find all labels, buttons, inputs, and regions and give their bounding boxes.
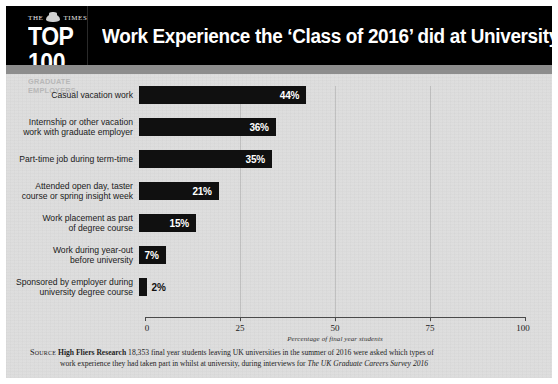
bar-category-label: Casual vacation work bbox=[6, 90, 139, 100]
x-tick-label-50: 50 bbox=[331, 323, 340, 333]
source-text-line-1: 18,353 final year students leaving UK un… bbox=[128, 348, 434, 357]
x-tick-0 bbox=[145, 317, 146, 321]
plot-area: Casual vacation work44%Internship or oth… bbox=[6, 74, 552, 344]
bar-value-label: 2% bbox=[147, 282, 166, 293]
bar-track: 44% bbox=[139, 86, 552, 104]
bar-row: Attended open day, taster course or spri… bbox=[6, 182, 552, 200]
bar-track: 2% bbox=[139, 278, 552, 296]
x-tick-50 bbox=[335, 317, 336, 321]
bar-value-label: 21% bbox=[192, 186, 218, 197]
bar-value-label: 15% bbox=[170, 218, 196, 229]
bar-track: 21% bbox=[139, 182, 552, 200]
x-axis: 0 25 50 75 100 bbox=[145, 317, 525, 318]
page-title: Work Experience the ‘Class of 2016’ did … bbox=[102, 25, 558, 47]
bar-value-label: 35% bbox=[246, 154, 272, 165]
header-accent-band bbox=[6, 65, 552, 74]
bar-row: Work during year-out before university7% bbox=[6, 246, 552, 264]
bar: 35% bbox=[139, 150, 272, 168]
x-tick-75 bbox=[430, 317, 431, 321]
bar: 2% bbox=[139, 278, 147, 296]
bar-category-label: Internship or other vacation work with g… bbox=[6, 117, 139, 137]
x-axis-label: Percentage of final year students bbox=[145, 335, 525, 343]
bar-category-label: Work placement as part of degree course bbox=[6, 213, 139, 233]
bar: 21% bbox=[139, 182, 219, 200]
header-band: THE TIMES TOP 100 GRADUATE EMPLOYERS Wor… bbox=[6, 6, 552, 65]
x-tick-25 bbox=[240, 317, 241, 321]
bar-track: 36% bbox=[139, 118, 552, 136]
bar-row: Casual vacation work44% bbox=[6, 86, 552, 104]
x-tick-100 bbox=[525, 317, 526, 321]
source-text-line-2: work experience they had taken part in w… bbox=[60, 359, 308, 368]
bar: 44% bbox=[139, 86, 306, 104]
source-organisation: High Fliers Research bbox=[58, 348, 126, 357]
times-top100-logo: THE TIMES TOP 100 GRADUATE EMPLOYERS bbox=[6, 6, 88, 65]
bar: 7% bbox=[139, 246, 166, 264]
source-line-2: work experience they had taken part in w… bbox=[30, 359, 532, 370]
x-tick-label-100: 100 bbox=[516, 323, 530, 333]
bar-value-label: 36% bbox=[249, 122, 275, 133]
bar-row: Work placement as part of degree course1… bbox=[6, 214, 552, 232]
x-tick-label-25: 25 bbox=[236, 323, 245, 333]
x-tick-label-75: 75 bbox=[426, 323, 435, 333]
royal-crest-icon bbox=[46, 14, 60, 22]
bar-row: Internship or other vacation work with g… bbox=[6, 118, 552, 136]
bar: 15% bbox=[139, 214, 196, 232]
bar-row: Part-time job during term-time35% bbox=[6, 150, 552, 168]
bar-category-label: Attended open day, taster course or spri… bbox=[6, 181, 139, 201]
bar-category-label: Work during year-out before university bbox=[6, 245, 139, 265]
source-word: Source bbox=[30, 348, 56, 357]
source-note: Source High Fliers Research 18,353 final… bbox=[6, 348, 552, 369]
times-masthead: THE TIMES bbox=[28, 13, 87, 22]
bar-track: 35% bbox=[139, 150, 552, 168]
bar: 36% bbox=[139, 118, 276, 136]
bar-track: 15% bbox=[139, 214, 552, 232]
bar-track: 7% bbox=[139, 246, 552, 264]
x-tick-label-0: 0 bbox=[145, 323, 150, 333]
source-line-1: Source High Fliers Research 18,353 final… bbox=[30, 348, 532, 359]
title-block: Work Experience the ‘Class of 2016’ did … bbox=[88, 6, 558, 65]
bar-value-label: 44% bbox=[280, 90, 306, 101]
infographic-figure: THE TIMES TOP 100 GRADUATE EMPLOYERS Wor… bbox=[0, 0, 558, 384]
survey-name: The UK Graduate Careers Survey 2016 bbox=[308, 359, 429, 368]
bar-category-label: Part-time job during term-time bbox=[6, 154, 139, 164]
bar-value-label: 7% bbox=[145, 250, 166, 261]
bar-row: Sponsored by employer during university … bbox=[6, 278, 552, 296]
masthead-the-text: THE bbox=[28, 14, 43, 22]
bar-category-label: Sponsored by employer during university … bbox=[6, 277, 139, 297]
masthead-times-text: TIMES bbox=[63, 14, 87, 22]
